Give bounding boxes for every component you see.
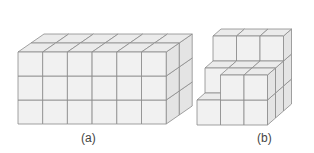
cube-front-face bbox=[244, 100, 268, 125]
cube-front-face bbox=[117, 100, 142, 124]
cube-front-face bbox=[142, 100, 167, 124]
cube-front-face bbox=[92, 52, 117, 76]
cube-front-face bbox=[18, 52, 43, 76]
cube-front-face bbox=[67, 76, 92, 100]
cube-front-face bbox=[197, 100, 221, 125]
cube-front-face bbox=[18, 100, 43, 124]
cube-front-face bbox=[117, 52, 142, 76]
cube-front-face bbox=[43, 100, 68, 124]
cube-front-face bbox=[92, 76, 117, 100]
cube-staircase-b bbox=[197, 29, 292, 125]
cube-front-face bbox=[237, 36, 261, 61]
cube-front-face bbox=[221, 75, 245, 100]
cube-front-face bbox=[117, 76, 142, 100]
caption-a: (a) bbox=[81, 131, 96, 145]
cube-front-face bbox=[260, 36, 284, 61]
cube-front-face bbox=[221, 100, 245, 125]
cube-front-face bbox=[67, 52, 92, 76]
cube-front-face bbox=[213, 36, 237, 61]
cube-front-face bbox=[142, 52, 167, 76]
cube-prism-a bbox=[18, 34, 192, 124]
caption-b: (b) bbox=[257, 131, 272, 145]
cube-front-face bbox=[43, 76, 68, 100]
cube-front-face bbox=[244, 75, 268, 100]
cube-front-face bbox=[18, 76, 43, 100]
cube-front-face bbox=[67, 100, 92, 124]
cube-front-face bbox=[142, 76, 167, 100]
cube-front-face bbox=[92, 100, 117, 124]
cube-front-face bbox=[43, 52, 68, 76]
